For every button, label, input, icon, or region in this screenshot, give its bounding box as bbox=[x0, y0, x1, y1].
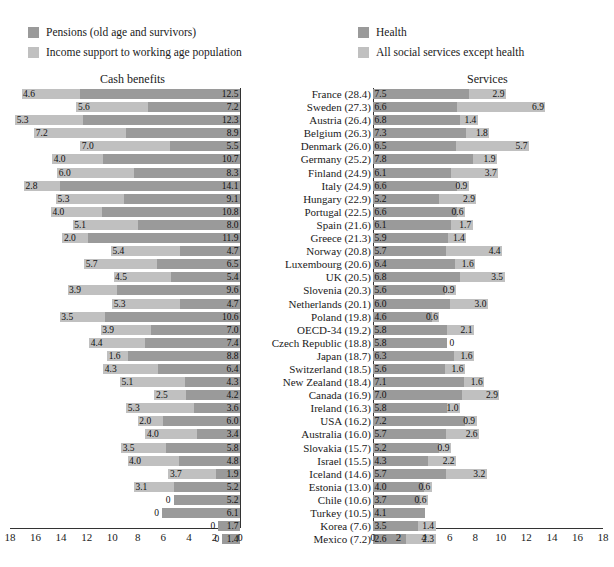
bar-value-health: 5.7 bbox=[375, 246, 387, 256]
table-row: 7.20.9 bbox=[373, 415, 603, 428]
table-row: 5.61.6 bbox=[373, 363, 603, 376]
table-row: 7.31.8 bbox=[373, 127, 603, 140]
bar-segment-pensions: 8.8 bbox=[128, 351, 240, 361]
bar-value-income-support: 5.4 bbox=[112, 246, 124, 256]
x-tick-label: 14 bbox=[56, 531, 67, 543]
bar-value-income-support: 4.5 bbox=[115, 272, 127, 282]
bar-value-income-support: 4.0 bbox=[52, 207, 64, 217]
bar-value-pensions: 11.9 bbox=[222, 233, 238, 243]
bar-segment-health: 5.7 bbox=[373, 246, 446, 256]
country-label: Korea (7.6) bbox=[243, 520, 371, 533]
stacked-bar-services: 5.72.6 bbox=[373, 429, 479, 439]
bar-segment-health: 3.7 bbox=[373, 495, 420, 505]
bar-segment-pensions: 8.9 bbox=[126, 128, 240, 138]
bar-value-health: 5.8 bbox=[375, 325, 387, 335]
table-row: 6.55.7 bbox=[373, 140, 603, 153]
country-label: Hungary (22.9) bbox=[243, 193, 371, 206]
table-row: 6.11.7 bbox=[373, 219, 603, 232]
x-tick-label: 16 bbox=[30, 531, 41, 543]
bar-segment-other-services: 2.6 bbox=[446, 429, 479, 439]
table-row: 3.70.6 bbox=[373, 494, 603, 507]
bar-value-health: 6.6 bbox=[375, 207, 387, 217]
stacked-bar-cash: 3.71.9 bbox=[168, 469, 240, 479]
bar-value-health: 5.9 bbox=[375, 233, 387, 243]
bar-value-income-support: 5.3 bbox=[58, 194, 70, 204]
stacked-bar-cash: 5.67.2 bbox=[76, 102, 240, 112]
x-tick-labels-right: 024681012141618 bbox=[373, 531, 603, 547]
bar-value-pensions: 3.6 bbox=[227, 403, 239, 413]
bar-segment-other-services: 0.6 bbox=[457, 207, 465, 217]
table-row: 4.00.6 bbox=[373, 481, 603, 494]
stacked-bar-cash: 5.44.7 bbox=[111, 246, 240, 256]
bar-segment-other-services: 5.7 bbox=[456, 141, 529, 151]
stacked-bar-cash: 5.33.6 bbox=[126, 403, 240, 413]
bar-value-other-services: 0 bbox=[450, 338, 455, 348]
bar-segment-pensions: 3.4 bbox=[197, 429, 240, 439]
country-label: Australia (16.0) bbox=[243, 428, 371, 441]
bar-value-other-services: 2.2 bbox=[443, 456, 455, 466]
bar-segment-other-services: 4.4 bbox=[446, 246, 502, 256]
table-row: 4.010.7 bbox=[10, 153, 240, 166]
table-row: 5.76.5 bbox=[10, 258, 240, 271]
country-label: Poland (19.8) bbox=[243, 311, 371, 324]
bar-segment-pensions: 5.8 bbox=[166, 443, 240, 453]
table-row: 5.73.2 bbox=[373, 468, 603, 481]
stacked-bar-services: 6.83.5 bbox=[373, 272, 505, 282]
bar-segment-pensions: 11.9 bbox=[88, 233, 240, 243]
bar-value-pensions: 4.3 bbox=[227, 377, 239, 387]
bar-segment-pensions: 7.2 bbox=[148, 102, 240, 112]
bar-segment-pensions: 12.3 bbox=[83, 115, 240, 125]
bar-value-other-services: 2.9 bbox=[493, 89, 505, 99]
legend-swatch-pensions-icon bbox=[28, 27, 39, 38]
stacked-bar-services: 4.00.6 bbox=[373, 482, 432, 492]
stacked-bar-services: 6.03.0 bbox=[373, 299, 488, 309]
bar-value-health: 6.5 bbox=[375, 141, 387, 151]
table-row: 5.18.0 bbox=[10, 219, 240, 232]
stacked-bar-cash: 4.55.4 bbox=[114, 272, 241, 282]
country-label: Slovakia (15.7) bbox=[243, 442, 371, 455]
table-row: 6.31.6 bbox=[373, 350, 603, 363]
bar-segment-health: 5.8 bbox=[373, 338, 447, 348]
table-row: 06.1 bbox=[10, 507, 240, 520]
stacked-bar-services: 6.13.7 bbox=[373, 168, 498, 178]
table-row: 6.60.6 bbox=[373, 206, 603, 219]
bar-value-other-services: 3.0 bbox=[475, 299, 487, 309]
bar-segment-income-support: 5.6 bbox=[76, 102, 148, 112]
bar-value-pensions: 9.6 bbox=[227, 285, 239, 295]
bar-value-pensions: 1.7 bbox=[227, 521, 239, 531]
bar-segment-other-services: 3.0 bbox=[450, 299, 488, 309]
bar-segment-other-services: 0.9 bbox=[445, 285, 457, 295]
bar-value-income-support: 3.1 bbox=[135, 482, 147, 492]
bar-value-health: 7.2 bbox=[375, 416, 387, 426]
bar-segment-health: 7.5 bbox=[373, 89, 469, 99]
bar-segment-other-services: 2.2 bbox=[428, 456, 456, 466]
table-row: 5.33.6 bbox=[10, 402, 240, 415]
table-row: 4.612.5 bbox=[10, 88, 240, 101]
stacked-bar-services: 5.60.9 bbox=[373, 285, 456, 295]
bar-segment-pensions: 8.0 bbox=[138, 220, 240, 230]
bar-value-income-support: 4.0 bbox=[54, 154, 66, 164]
bar-segment-other-services: 0.6 bbox=[420, 495, 428, 505]
stacked-bar-cash: 3.55.8 bbox=[121, 443, 240, 453]
bar-segment-health: 7.0 bbox=[373, 390, 462, 400]
bar-value-income-support: 6.0 bbox=[59, 168, 71, 178]
bar-segment-income-support: 4.6 bbox=[22, 89, 81, 99]
country-label: Switzerland (18.5) bbox=[243, 363, 371, 376]
table-row: 2.011.9 bbox=[10, 232, 240, 245]
bar-value-health: 7.1 bbox=[375, 377, 387, 387]
table-row: 5.82.1 bbox=[373, 324, 603, 337]
bar-segment-income-support: 4.0 bbox=[51, 207, 102, 217]
bar-segment-health: 6.0 bbox=[373, 299, 450, 309]
bar-segment-pensions: 1.9 bbox=[216, 469, 240, 479]
bar-segment-other-services: 1.6 bbox=[464, 377, 484, 387]
bar-segment-health: 5.2 bbox=[373, 443, 439, 453]
stacked-bar-cash: 2.06.0 bbox=[138, 416, 240, 426]
bar-segment-income-support: 3.5 bbox=[121, 443, 166, 453]
table-row: 7.28.9 bbox=[10, 127, 240, 140]
bar-value-income-support: 2.0 bbox=[64, 233, 76, 243]
bar-value-income-support: 4.3 bbox=[105, 364, 117, 374]
bar-value-income-support: 5.3 bbox=[114, 299, 126, 309]
table-row: 4.60.6 bbox=[373, 311, 603, 324]
stacked-bar-services: 5.91.4 bbox=[373, 233, 466, 243]
bar-value-pensions: 10.6 bbox=[222, 312, 239, 322]
